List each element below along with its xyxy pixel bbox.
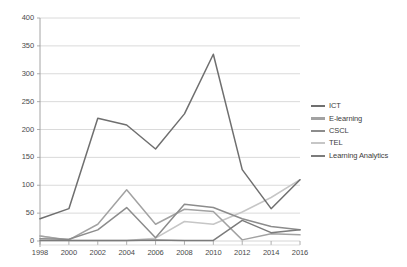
legend-item-label: CSCL [329,127,349,135]
line-chart: 400350300250200150100500 199820002002200… [0,0,407,267]
legend-swatch-icon [311,130,325,132]
x-axis-tick-label: 2004 [112,249,142,257]
y-axis-tick-label: 350 [8,42,34,50]
legend-item: CSCL [311,125,407,137]
series-lines [40,54,300,240]
x-axis-tick-label: 2006 [141,249,171,257]
x-axis-tick-label: 2010 [198,249,228,257]
y-axis-tick-label: 400 [8,14,34,22]
x-tick-marks [40,241,300,245]
x-axis-tick-label: 2002 [83,249,113,257]
x-axis-tick-label: 2008 [169,249,199,257]
legend-item: TEL [311,137,407,149]
y-axis-tick-label: 50 [8,209,34,217]
y-axis-tick-label: 250 [8,98,34,106]
legend-swatch-icon [311,105,325,107]
series-line [40,54,300,218]
series-line [40,180,300,241]
legend-item-label: TEL [329,139,342,147]
y-axis-tick-label: 0 [8,237,34,245]
legend-item-label: ICT [329,102,341,110]
y-axis-tick-label: 100 [8,181,34,189]
x-axis-tick-label: 1998 [25,249,55,257]
gridlines [37,18,300,241]
y-axis-tick-label: 150 [8,153,34,161]
legend-item-label: Learning Analytics [329,152,388,160]
y-axis-tick-label: 200 [8,126,34,134]
legend-swatch-icon [311,155,325,157]
legend-swatch-icon [311,142,325,144]
x-axis-tick-label: 2012 [227,249,257,257]
series-line [40,190,300,240]
chart-legend: ICTE-learningCSCLTELLearning Analytics [311,100,407,162]
legend-item: ICT [311,100,407,112]
legend-item: E-learning [311,112,407,124]
x-axis-tick-label: 2000 [54,249,84,257]
x-axis-tick-label: 2014 [256,249,286,257]
legend-swatch-icon [311,117,325,119]
y-axis-tick-label: 300 [8,70,34,78]
legend-item: Learning Analytics [311,150,407,162]
legend-item-label: E-learning [329,115,362,123]
x-axis-tick-label: 2016 [285,249,315,257]
